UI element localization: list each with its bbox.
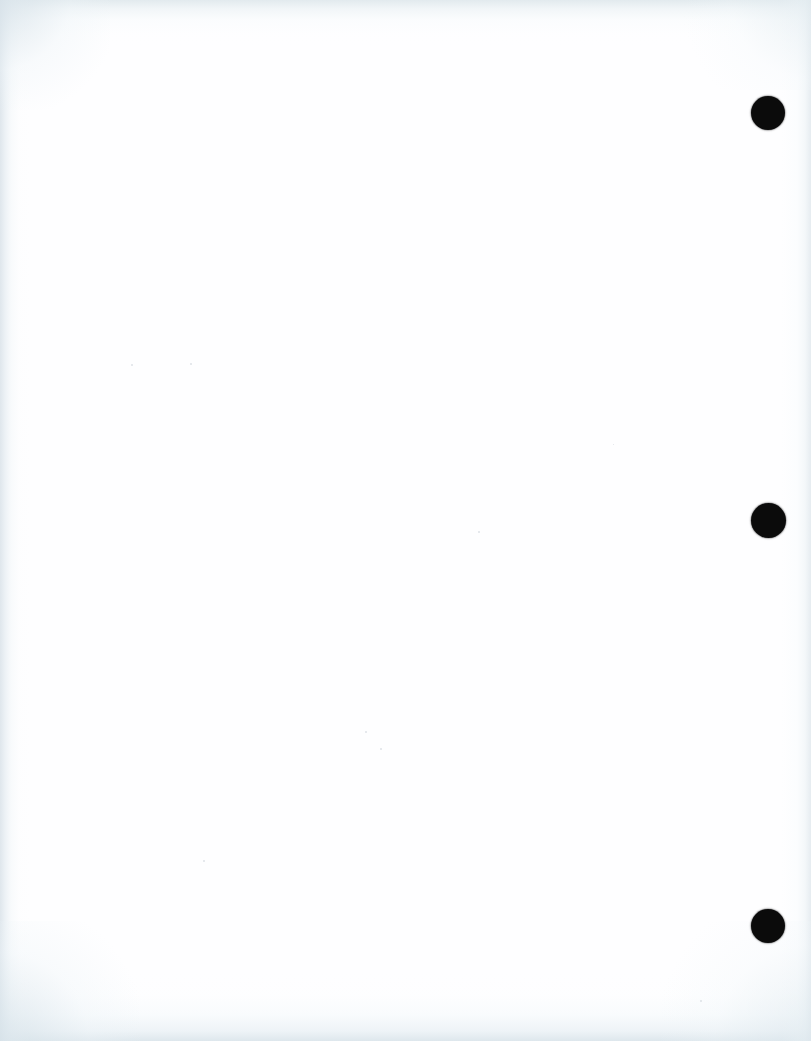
paper-surface (0, 0, 811, 1041)
hole-punch-middle (751, 503, 786, 538)
hole-punch-top (751, 96, 785, 130)
scanned-page (0, 0, 811, 1041)
hole-punch-bottom (751, 909, 785, 943)
